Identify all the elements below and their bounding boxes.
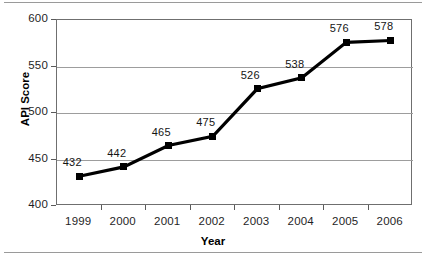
data-point-marker <box>76 173 83 180</box>
top-divider-rule <box>4 2 422 3</box>
x-tick-label: 2002 <box>190 216 235 228</box>
data-point-marker <box>120 163 127 170</box>
data-point-marker <box>165 142 172 149</box>
chart-figure: API Score Year 400450500550600 199920002… <box>0 0 426 264</box>
data-point-marker <box>209 133 216 140</box>
data-point-marker <box>298 74 305 81</box>
x-tick-label: 2000 <box>101 216 146 228</box>
data-point-marker <box>254 85 261 92</box>
data-point-label: 432 <box>59 157 85 168</box>
x-tick-label: 2004 <box>279 216 324 228</box>
data-point-label: 442 <box>104 148 130 159</box>
bottom-divider-rule <box>4 252 422 253</box>
x-axis-title: Year <box>0 235 426 247</box>
y-tick-mark <box>51 205 56 206</box>
series-line-api-score <box>57 20 413 206</box>
x-tick-label: 2005 <box>323 216 368 228</box>
y-tick-label: 600 <box>4 13 48 25</box>
x-tick-label: 2001 <box>145 216 190 228</box>
data-point-label: 465 <box>148 127 174 138</box>
data-point-label: 578 <box>371 21 397 32</box>
data-point-label: 526 <box>237 70 263 81</box>
y-tick-label: 500 <box>4 106 48 118</box>
x-tick-label: 2003 <box>234 216 279 228</box>
data-point-label: 538 <box>282 59 308 70</box>
data-point-marker <box>343 39 350 46</box>
data-point-label: 576 <box>326 23 352 34</box>
y-tick-label: 550 <box>4 60 48 72</box>
data-point-marker <box>387 37 394 44</box>
y-tick-label: 400 <box>4 199 48 211</box>
data-point-label: 475 <box>193 117 219 128</box>
x-tick-label: 1999 <box>56 216 101 228</box>
plot-area: 432442465475526538576578 <box>56 19 412 205</box>
y-tick-label: 450 <box>4 153 48 165</box>
x-tick-label: 2006 <box>368 216 413 228</box>
